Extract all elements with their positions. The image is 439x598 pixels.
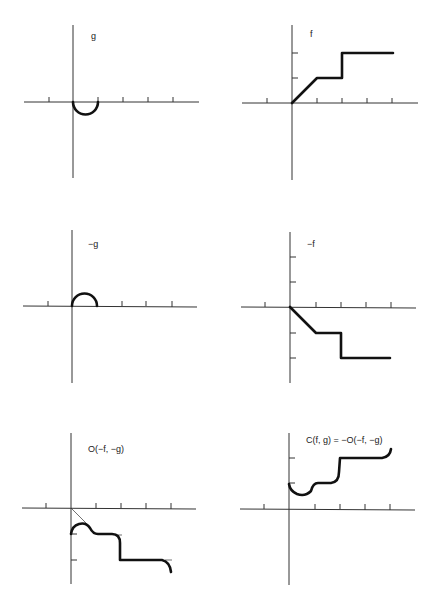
y-ticks	[71, 534, 77, 560]
panel-label: C(f, g) = −O(−f, −g)	[306, 435, 383, 445]
neg-f-curve	[290, 307, 390, 358]
y-ticks	[292, 53, 298, 78]
panel-f: f	[242, 25, 418, 180]
panel-neg-f: −f	[241, 232, 416, 383]
x-axis	[240, 509, 415, 510]
panel-neg-g: −g	[23, 230, 197, 383]
panel-label: f	[310, 29, 313, 39]
C-curve	[289, 449, 391, 495]
x-axis	[22, 508, 196, 509]
panel-label: −g	[88, 239, 98, 249]
f-curve	[292, 53, 393, 103]
g-curve	[73, 102, 98, 115]
x-ticks	[49, 97, 173, 102]
x-ticks	[267, 98, 392, 103]
reference-marks	[116, 535, 172, 560]
x-axis	[23, 306, 197, 307]
neg-g-curve	[72, 294, 97, 307]
figure-canvas: g f −g	[0, 0, 439, 598]
panel-O: O(−f, −g)	[22, 433, 196, 584]
panel-label: −f	[307, 239, 315, 249]
panel-label: O(−f, −g)	[88, 444, 124, 454]
panel-C: C(f, g) = −O(−f, −g)	[240, 433, 415, 585]
panel-g: g	[24, 25, 199, 178]
y-ticks	[289, 458, 295, 483]
x-axis	[241, 307, 416, 308]
panel-label: g	[91, 31, 96, 41]
O-curve	[71, 524, 171, 573]
